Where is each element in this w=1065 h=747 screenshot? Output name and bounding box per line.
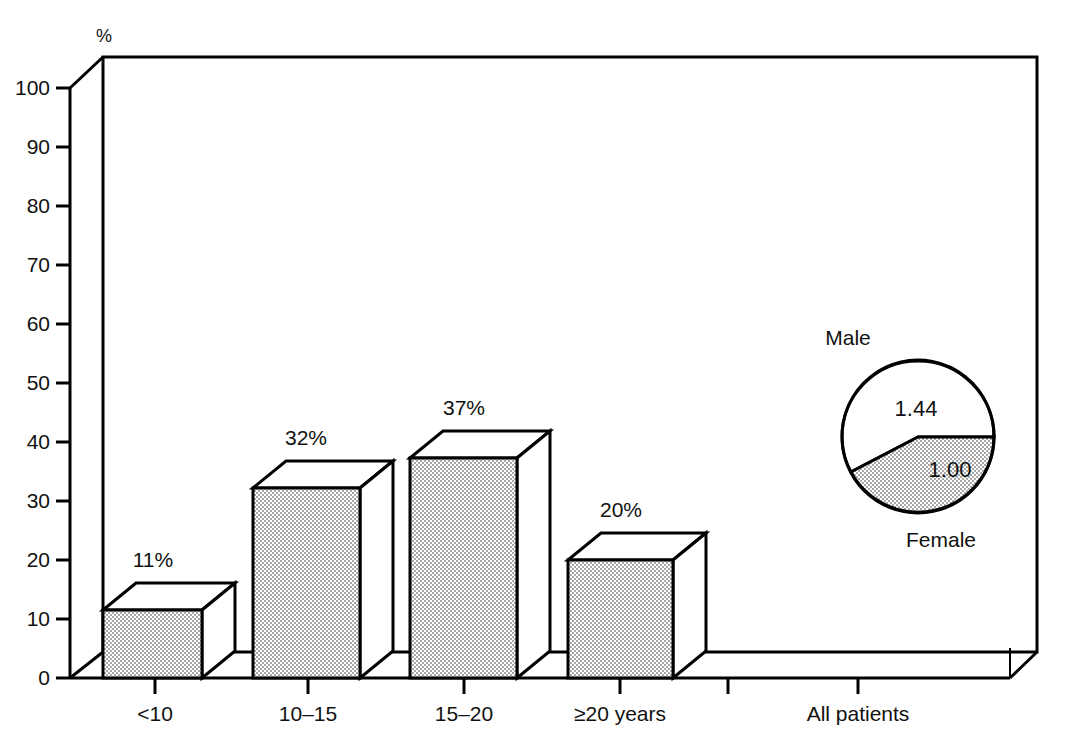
y-tick-label-40: 40: [0, 431, 50, 452]
bar-4-side-face: [673, 533, 706, 678]
x-tick-label-15-20: 15–20: [384, 703, 544, 724]
y-tick-label-50: 50: [0, 372, 50, 393]
left-wall-top-edge: [70, 57, 103, 88]
pie-value-female: 1.00: [900, 459, 1000, 481]
x-tick-label-all-patients: All patients: [768, 703, 948, 724]
x-tick-label-ge20-years: ≥20 years: [530, 703, 710, 724]
y-tick-label-60: 60: [0, 313, 50, 334]
bar-value-label-2: 32%: [241, 427, 371, 448]
bar-1-front-face: [103, 610, 202, 678]
bar-3-side-face: [517, 431, 550, 678]
chart-figure: % 100 90 80 70 60 50 40 30 20 10 0 <10 1…: [0, 0, 1065, 747]
bar-4-front-face: [568, 560, 673, 678]
bar-3-front-face: [410, 458, 517, 678]
y-tick-label-80: 80: [0, 195, 50, 216]
y-axis-ticks: [56, 88, 70, 678]
bar-value-label-1: 11%: [88, 549, 218, 570]
x-tick-label-10-15: 10–15: [228, 703, 388, 724]
y-tick-label-20: 20: [0, 549, 50, 570]
chart-canvas: [0, 0, 1065, 747]
left-wall-bottom-edge: [70, 652, 103, 678]
x-tick-label-lt10: <10: [75, 703, 235, 724]
pie-value-male: 1.44: [866, 398, 966, 420]
y-axis-unit-label: %: [96, 27, 112, 45]
bar-3d-2: [253, 461, 393, 678]
bar-3d-1: [103, 583, 235, 678]
pie-label-female: Female: [876, 529, 1006, 550]
y-tick-label-30: 30: [0, 490, 50, 511]
pie-chart-inset: [842, 360, 994, 513]
floor-right-edge: [1010, 652, 1037, 678]
bar-value-label-3: 37%: [399, 397, 529, 418]
bar-3d-4: [568, 533, 706, 678]
y-tick-label-10: 10: [0, 608, 50, 629]
x-axis-ticks: [155, 678, 858, 694]
pie-label-male: Male: [788, 327, 908, 348]
y-tick-label-100: 100: [0, 77, 50, 98]
y-tick-label-0: 0: [0, 667, 50, 688]
bar-2-side-face: [360, 461, 393, 678]
bar-2-front-face: [253, 488, 360, 678]
bar-value-label-4: 20%: [556, 499, 686, 520]
bar-3d-3: [410, 431, 550, 678]
y-tick-label-70: 70: [0, 254, 50, 275]
y-tick-label-90: 90: [0, 136, 50, 157]
